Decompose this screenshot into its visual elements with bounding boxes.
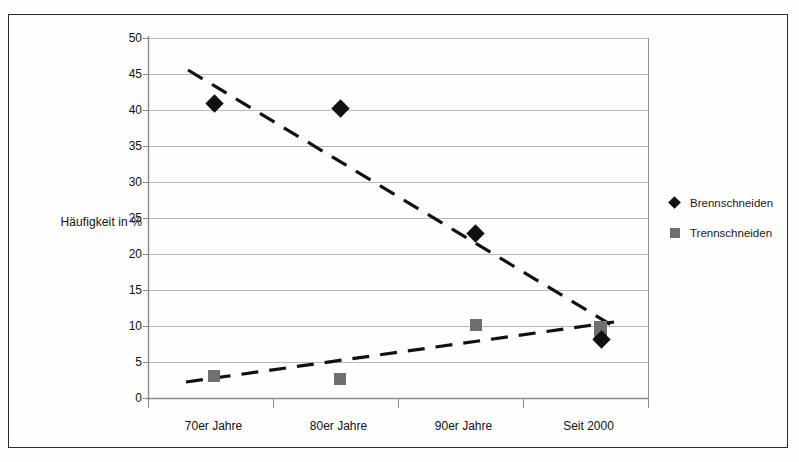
data-point-trennschneiden-80er	[334, 373, 346, 385]
legend-label-trennschneiden: Trennschneiden	[690, 227, 772, 239]
data-point-trennschneiden-70er	[208, 370, 220, 382]
trendline-trennschneiden	[186, 322, 614, 382]
legend-item-brennschneiden: Brennschneiden	[667, 188, 785, 218]
chart-legend: Brennschneiden Trennschneiden	[667, 188, 785, 248]
data-point-brennschneiden-90er	[466, 224, 484, 242]
data-point-trennschneiden-90er	[470, 319, 482, 331]
x-tick-marks	[149, 398, 649, 408]
square-marker-icon	[667, 225, 683, 241]
legend-label-brennschneiden: Brennschneiden	[690, 197, 773, 209]
data-point-brennschneiden-70er	[205, 94, 223, 112]
data-point-brennschneiden-80er	[331, 99, 349, 117]
series-brennschneiden-markers	[205, 94, 610, 348]
series-trennschneiden-markers	[208, 319, 607, 385]
legend-item-trennschneiden: Trennschneiden	[667, 218, 785, 248]
y-tick-marks	[143, 39, 148, 399]
chart-figure: Häufigkeit in % 50 45 40 35 30 25 20 15 …	[0, 0, 799, 462]
diamond-marker-icon	[667, 195, 683, 211]
trendline-brennschneiden	[188, 70, 613, 326]
gridlines	[148, 39, 649, 363]
